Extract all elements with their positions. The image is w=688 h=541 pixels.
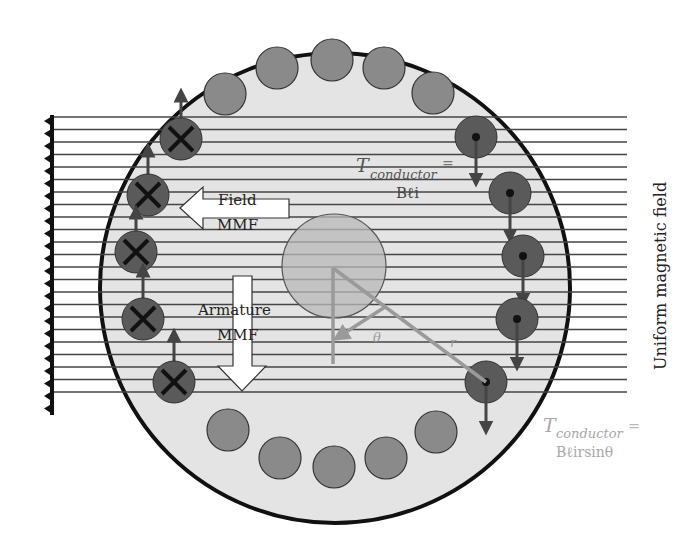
field-mmf-label-line2: MMF [217, 216, 258, 234]
magnet-pole-teeth [44, 115, 54, 415]
radius-label: r [450, 335, 457, 350]
torque-equation-bottom: T conductor = Bℓirsinθ [543, 414, 640, 460]
torque-top-expression: Bℓi [396, 184, 419, 202]
torque-bottom-subscript: conductor [556, 426, 624, 441]
torque-bottom-expression: Bℓirsinθ [556, 444, 613, 460]
torque-bottom-symbol: T [543, 414, 557, 436]
torque-top-symbol: T [356, 154, 370, 176]
armature-mmf-label-line1: Armature [197, 301, 271, 319]
torque-top-equals: = [442, 155, 454, 171]
theta-label: θ [373, 330, 381, 345]
field-mmf-label-line1: Field [218, 191, 257, 209]
diagram-canvas: Field MMF Armature MMF T conductor = Bℓi… [0, 0, 688, 541]
torque-top-subscript: conductor [370, 167, 438, 182]
uniform-field-label: Uniform magnetic field [651, 182, 670, 370]
armature-mmf-label-line2: MMF [217, 326, 258, 344]
torque-bottom-equals: = [628, 418, 640, 434]
